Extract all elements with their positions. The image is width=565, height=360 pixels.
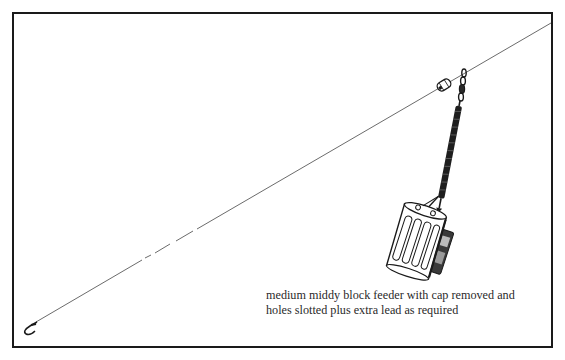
block-feeder-icon — [383, 187, 463, 286]
swivel-icon — [459, 69, 467, 106]
caption-line-2: holes slotted plus extra lead as require… — [266, 303, 556, 318]
hook-icon — [25, 322, 37, 335]
figure-caption: medium middy block feeder with cap remov… — [266, 288, 556, 318]
spring-boom-icon — [435, 105, 462, 213]
bead-icon — [436, 77, 453, 92]
caption-line-1: medium middy block feeder with cap remov… — [266, 288, 556, 303]
fishing-line — [36, 23, 551, 322]
